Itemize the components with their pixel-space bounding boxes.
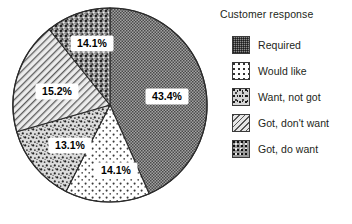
swatch-required-icon [232,36,250,54]
legend-label-want-not-got: Want, not got [258,91,321,103]
legend: Customer response Required Would like Wa… [206,8,352,164]
pie-chart-svg: 43.4% 14.1% 13.1% 15.2% 14.1% [0,0,220,224]
legend-item-want-not-got[interactable]: Want, not got [232,86,352,108]
legend-item-required[interactable]: Required [232,34,352,56]
swatch-would-like-icon [232,62,250,80]
pie-label-text-want-not-got: 13.1% [55,139,85,151]
legend-item-would-like[interactable]: Would like [232,60,352,82]
pie-slice-label-required: 43.4% [146,89,188,104]
pie-slice-label-would-like: 14.1% [95,163,137,178]
legend-label-got-dont-want: Got, don't want [258,117,329,129]
swatch-got-dont-want-icon [232,114,250,132]
pie-chart-plot-area: 43.4% 14.1% 13.1% 15.2% 14.1% [0,0,220,224]
pie-label-text-would-like: 14.1% [101,164,131,176]
legend-item-got-do-want[interactable]: Got, do want [232,138,352,160]
pie-slice-label-got-do-want: 14.1% [71,36,113,51]
swatch-want-not-got-icon [232,88,250,106]
pie-label-text-required: 43.4% [152,90,182,102]
legend-items: Required Would like Want, not got Got, d… [206,34,352,160]
pie-label-text-got-dont-want: 15.2% [42,85,72,97]
legend-label-required: Required [258,39,301,51]
pie-slice-label-got-dont-want: 15.2% [36,84,78,99]
legend-item-got-dont-want[interactable]: Got, don't want [232,112,352,134]
swatch-got-do-want-icon [232,140,250,158]
legend-label-would-like: Would like [258,65,307,77]
legend-label-got-do-want: Got, do want [258,143,318,155]
pie-slice-label-want-not-got: 13.1% [49,138,91,153]
pie-label-text-got-do-want: 14.1% [77,37,107,49]
legend-title: Customer response [206,8,352,20]
pie-chart-figure: 43.4% 14.1% 13.1% 15.2% 14.1% Customer r… [0,0,352,224]
